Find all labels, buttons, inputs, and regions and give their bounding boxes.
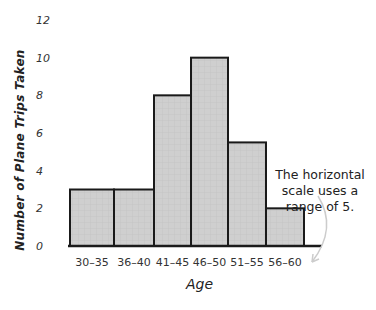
y-tick-label: 8 <box>36 89 56 102</box>
y-tick-label: 2 <box>36 202 56 215</box>
y-tick-label: 4 <box>36 164 56 177</box>
x-tick-label: 51–55 <box>230 256 264 269</box>
histogram-bar <box>154 95 191 246</box>
x-tick-label: 36–40 <box>117 256 151 269</box>
x-tick-label: 30–35 <box>75 256 109 269</box>
histogram-bar <box>228 142 266 246</box>
annotation-line: The horizontal <box>265 167 375 183</box>
x-tick-label: 46–50 <box>193 256 227 269</box>
annotation-line: range of 5. <box>265 199 375 215</box>
x-axis-label: Age <box>186 276 213 292</box>
y-tick-label: 12 <box>36 14 56 27</box>
annotation-text: The horizontal scale uses a range of 5. <box>265 167 375 215</box>
y-tick-label: 0 <box>36 240 56 253</box>
histogram-bar <box>114 190 154 247</box>
y-tick-label: 10 <box>36 51 56 64</box>
y-tick-label: 6 <box>36 127 56 140</box>
x-tick-label: 41–45 <box>156 256 190 269</box>
annotation-line: scale uses a <box>265 183 375 199</box>
histogram-bar <box>191 58 228 246</box>
x-tick-label: 56–60 <box>268 256 302 269</box>
y-axis-label: Number of Plane Trips Taken <box>13 49 27 250</box>
bars-group <box>70 58 304 246</box>
histogram-bar <box>70 190 114 247</box>
